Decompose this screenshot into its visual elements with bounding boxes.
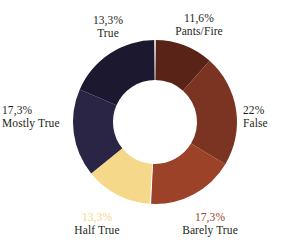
slice-name-barely-true: Barely True — [168, 224, 252, 237]
slice-label-half-true: 13,3% Half True — [56, 211, 138, 237]
slice-name-mostly-true: Mostly True — [2, 117, 86, 130]
slice-label-true: 13,3% True — [74, 14, 142, 40]
slice-label-barely-true: 17,3% Barely True — [168, 211, 252, 237]
slice-percent-barely-true: 17,3% — [168, 211, 252, 224]
slice-percent-mostly-true: 17,3% — [2, 104, 86, 117]
slice-percent-false: 22% — [243, 104, 295, 117]
slice-name-false: False — [243, 117, 295, 130]
slice-name-pants-fire: Pants/Fire — [156, 25, 242, 38]
donut-slice-group — [73, 39, 237, 205]
slice-name-half-true: Half True — [56, 224, 138, 237]
slice-percent-half-true: 13,3% — [56, 211, 138, 224]
slice-label-pants-fire: 11,6% Pants/Fire — [156, 12, 242, 38]
slice-percent-true: 13,3% — [74, 14, 142, 27]
slice-name-true: True — [74, 27, 142, 40]
donut-chart: 13,3% True 11,6% Pants/Fire 22% False 17… — [0, 0, 299, 247]
slice-percent-pants-fire: 11,6% — [156, 12, 242, 25]
slice-label-false: 22% False — [243, 104, 295, 130]
slice-label-mostly-true: 17,3% Mostly True — [2, 104, 86, 130]
